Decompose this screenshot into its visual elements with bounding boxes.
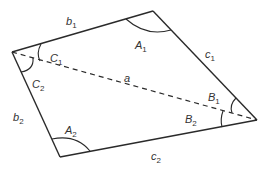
label-a: a xyxy=(124,72,130,84)
side-c1 xyxy=(153,11,257,120)
angle-arc-A2 xyxy=(52,138,90,151)
label-b2: b2 xyxy=(13,111,24,126)
label-A2: A2 xyxy=(64,124,77,139)
side-b2 xyxy=(12,52,60,157)
label-B2: B2 xyxy=(185,113,197,128)
angle-arc-B2 xyxy=(221,111,223,127)
angle-arc-B1 xyxy=(231,98,236,113)
quadrilateral-diagram: b1 A1 c1 C1 a C2 B1 b2 B2 A2 c2 xyxy=(0,0,272,172)
label-c2: c2 xyxy=(151,150,162,165)
side-b1 xyxy=(12,11,153,52)
angle-arc-C2 xyxy=(21,58,33,72)
label-C2: C2 xyxy=(32,78,45,93)
side-c2 xyxy=(60,120,257,157)
diagonal-a xyxy=(12,52,257,120)
label-c1: c1 xyxy=(205,48,216,63)
label-A1: A1 xyxy=(134,39,147,54)
label-b1: b1 xyxy=(66,15,77,30)
angle-arc-A1 xyxy=(126,19,171,32)
angle-arc-C1 xyxy=(38,44,41,61)
label-B1: B1 xyxy=(208,91,220,106)
